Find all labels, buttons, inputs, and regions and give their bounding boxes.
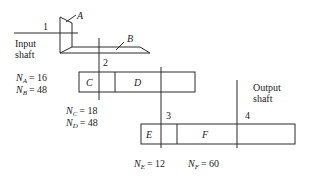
gear-a-leader — [66, 15, 76, 22]
gear-e-label: E — [145, 129, 152, 140]
output-shaft-label-line2: shaft — [253, 93, 273, 104]
gear-b-label: B — [127, 33, 133, 44]
gear-d-label: D — [133, 77, 142, 88]
teeth-nd: ND= 48 — [65, 117, 98, 130]
teeth-nb: NB= 48 — [15, 84, 47, 97]
input-shaft-label-line1: Input — [15, 38, 36, 49]
gear-b — [60, 42, 150, 53]
shaft-3-label: 3 — [166, 110, 171, 121]
shaft-2-label: 2 — [103, 57, 108, 68]
teeth-nf: NF= 60 — [187, 158, 219, 171]
gear-f-label: F — [201, 129, 209, 140]
gear-ef-box — [141, 124, 295, 144]
gear-c-label: C — [86, 77, 93, 88]
gear-train-diagram: 1 Input shaft A B NA= 16 NB= 48 C D 2 NC… — [0, 0, 313, 184]
gear-a-label: A — [76, 10, 84, 21]
shaft-4-label: 4 — [245, 110, 250, 121]
teeth-ne: NE= 12 — [133, 158, 165, 171]
gear-b-leader — [116, 42, 124, 50]
shaft-1-label: 1 — [43, 21, 48, 32]
input-shaft-label-line2: shaft — [15, 49, 35, 60]
output-shaft-label-line1: Output — [253, 82, 281, 93]
